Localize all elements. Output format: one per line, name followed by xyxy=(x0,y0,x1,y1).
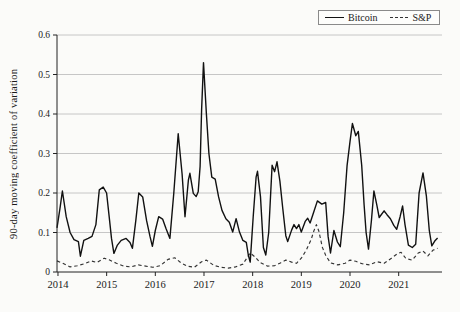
bitcoin-line-swatch-icon xyxy=(325,17,344,18)
y-tick-label: 0.3 xyxy=(38,149,50,159)
y-tick-label: 0.6 xyxy=(38,30,50,40)
x-tick-label: 2019 xyxy=(291,279,312,290)
y-tick-label: 0 xyxy=(45,267,50,277)
legend: Bitcoin S&P xyxy=(318,10,440,25)
y-axis-title: 90-day moving coefficient of variation xyxy=(5,35,21,272)
x-tick-label: 2016 xyxy=(145,279,166,290)
y-tick-label: 0.4 xyxy=(38,109,50,119)
x-tick-label: 2018 xyxy=(242,279,263,290)
chart-canvas: 00.10.20.30.40.50.6201420152016201720182… xyxy=(0,0,460,312)
sp-line-swatch-icon xyxy=(390,17,408,18)
x-tick-label: 2015 xyxy=(96,279,117,290)
x-tick-label: 2020 xyxy=(340,279,361,290)
legend-label-bitcoin: Bitcoin xyxy=(348,12,377,23)
y-tick-label: 0.1 xyxy=(38,228,50,238)
figure: 00.10.20.30.40.50.6201420152016201720182… xyxy=(0,0,460,312)
x-tick-label: 2021 xyxy=(388,279,409,290)
x-tick-label: 2014 xyxy=(47,279,69,290)
y-tick-label: 0.2 xyxy=(38,188,50,198)
y-tick-label: 0.5 xyxy=(38,70,50,80)
x-tick-label: 2017 xyxy=(193,279,214,290)
legend-label-sp: S&P xyxy=(412,12,431,23)
